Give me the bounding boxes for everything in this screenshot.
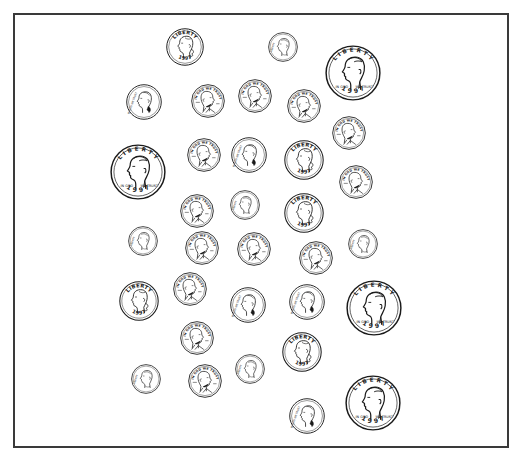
half-dollar-icon: L I B E R T Y1 9 9 7IN GODWE TRUST [325,45,381,101]
penny-coin: IN GOD WE TRUST [237,232,271,266]
svg-text:WE TRUST: WE TRUST [140,184,158,188]
penny-coin: IN GOD WE TRUST [180,321,214,355]
nickel-coin: IN GOD WE TRUST [289,284,325,320]
dime-icon: LIBERTY [128,226,158,256]
dime-icon: LIBERTY [230,190,260,220]
penny-icon: IN GOD WE TRUST [238,79,272,113]
dime-coin: LIBERTY [131,364,161,394]
quarter-coin: LIBERTY1997 [284,140,324,180]
penny-icon: IN GOD WE TRUST [180,321,214,355]
penny-coin: IN GOD WE TRUST [339,165,373,199]
penny-coin: IN GOD WE TRUST [173,272,207,306]
nickel-coin: IN GOD WE TRUST [289,398,325,434]
penny-coin: IN GOD WE TRUST [287,89,321,123]
dime-icon: LIBERTY [235,354,265,384]
nickel-coin: IN GOD WE TRUST [231,137,267,173]
penny-coin: IN GOD WE TRUST [299,241,333,275]
penny-coin: IN GOD WE TRUST [191,84,225,118]
dime-icon: LIBERTY [348,229,378,259]
penny-icon: IN GOD WE TRUST [299,241,333,275]
svg-text:IN GOD: IN GOD [336,85,349,89]
dime-coin: LIBERTY [268,32,298,62]
dime-coin: LIBERTY [348,229,378,259]
penny-icon: IN GOD WE TRUST [287,89,321,123]
dime-coin: LIBERTY [235,354,265,384]
quarter-icon: LIBERTY1997 [284,193,324,233]
nickel-icon: IN GOD WE TRUST [289,284,325,320]
quarter-icon: LIBERTY1997 [284,140,324,180]
quarter-icon: LIBERTY1997 [119,281,159,321]
quarter-coin: LIBERTY1997 [282,332,322,372]
penny-coin: IN GOD WE TRUST [188,364,222,398]
penny-coin: IN GOD WE TRUST [187,138,221,172]
half-dollar-coin: L I B E R T Y1 9 9 7IN GODWE TRUST [325,45,381,101]
penny-coin: IN GOD WE TRUST [185,231,219,265]
penny-icon: IN GOD WE TRUST [180,194,214,228]
nickel-icon: IN GOD WE TRUST [289,398,325,434]
penny-icon: IN GOD WE TRUST [237,232,271,266]
penny-icon: IN GOD WE TRUST [173,272,207,306]
penny-coin: IN GOD WE TRUST [332,116,366,150]
nickel-coin: IN GOD WE TRUST [126,84,162,120]
penny-coin: IN GOD WE TRUST [180,194,214,228]
dime-coin: LIBERTY [128,226,158,256]
svg-text:IN GOD: IN GOD [356,415,369,419]
penny-coin: IN GOD WE TRUST [238,79,272,113]
quarter-coin: LIBERTY1997 [119,281,159,321]
quarter-coin: LIBERTY1997 [166,28,204,66]
nickel-coin: IN GOD WE TRUST [230,287,266,323]
penny-icon: IN GOD WE TRUST [185,231,219,265]
penny-icon: IN GOD WE TRUST [188,364,222,398]
half-dollar-icon: L I B E R T Y1 9 9 7IN GODWE TRUST [110,144,166,200]
coin-collection: LIBERTY1997LIBERTYL I B E R T Y1 9 9 7IN… [0,0,521,456]
quarter-icon: LIBERTY1997 [166,28,204,66]
half-dollar-coin: L I B E R T Y1 9 9 7IN GODWE TRUST [345,375,401,431]
dime-icon: LIBERTY [131,364,161,394]
penny-icon: IN GOD WE TRUST [339,165,373,199]
nickel-icon: IN GOD WE TRUST [231,137,267,173]
nickel-icon: IN GOD WE TRUST [126,84,162,120]
half-dollar-icon: L I B E R T Y1 9 9 7IN GODWE TRUST [346,280,402,336]
quarter-coin: LIBERTY1997 [284,193,324,233]
half-dollar-coin: L I B E R T Y1 9 9 7IN GODWE TRUST [346,280,402,336]
penny-icon: IN GOD WE TRUST [187,138,221,172]
svg-text:WE TRUST: WE TRUST [355,85,373,89]
dime-coin: LIBERTY [230,190,260,220]
quarter-icon: LIBERTY1997 [282,332,322,372]
half-dollar-icon: L I B E R T Y1 9 9 7IN GODWE TRUST [345,375,401,431]
svg-text:IN GOD: IN GOD [121,184,134,188]
nickel-icon: IN GOD WE TRUST [230,287,266,323]
half-dollar-coin: L I B E R T Y1 9 9 7IN GODWE TRUST [110,144,166,200]
svg-text:WE TRUST: WE TRUST [376,320,394,324]
svg-text:WE TRUST: WE TRUST [375,415,393,419]
dime-icon: LIBERTY [268,32,298,62]
penny-icon: IN GOD WE TRUST [191,84,225,118]
penny-icon: IN GOD WE TRUST [332,116,366,150]
svg-text:IN GOD: IN GOD [357,320,370,324]
